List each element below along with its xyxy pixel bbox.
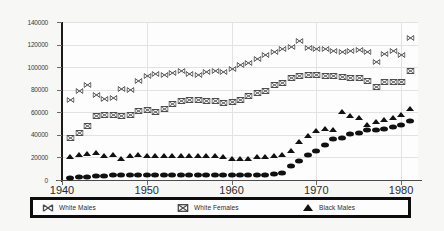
x-axis-tick-label: 1950	[135, 184, 159, 196]
x-axis-tick-label: 1940	[50, 184, 74, 196]
data-point-marker	[389, 115, 397, 120]
x-axis-tick-mark	[147, 181, 148, 185]
data-point-marker	[278, 171, 286, 176]
x-axis-tick-mark	[316, 181, 317, 185]
data-point-marker	[312, 128, 320, 133]
data-point-marker	[203, 69, 210, 75]
data-point-marker	[321, 143, 329, 148]
data-point-marker	[287, 75, 294, 81]
data-point-marker	[329, 137, 337, 142]
data-point-marker	[346, 131, 354, 136]
data-point-marker	[347, 48, 354, 54]
data-point-marker	[203, 98, 210, 104]
data-point-marker	[219, 154, 227, 159]
data-point-marker	[211, 98, 218, 104]
y-axis-tick-label: 20000	[31, 154, 48, 161]
data-point-marker	[135, 108, 142, 114]
y-axis-tick-mark	[57, 45, 62, 46]
data-point-marker	[194, 153, 202, 158]
y-axis-tick-mark	[57, 22, 62, 23]
x-axis-tick-mark	[232, 181, 233, 185]
data-point-marker	[329, 127, 337, 132]
data-point-marker	[296, 73, 303, 79]
data-point-marker	[312, 148, 320, 153]
data-point-marker	[389, 124, 397, 129]
data-point-marker	[84, 123, 91, 129]
data-point-marker	[202, 173, 210, 178]
legend-entry[interactable]: White Males	[41, 200, 96, 215]
data-point-marker	[304, 72, 311, 78]
legend-entry[interactable]: White Females	[176, 200, 239, 215]
data-point-marker	[279, 46, 286, 52]
data-point-marker	[304, 153, 312, 158]
data-point-marker	[397, 122, 405, 127]
data-point-marker	[278, 152, 286, 157]
gridline-horizontal	[62, 45, 418, 46]
gridline-horizontal	[62, 90, 418, 91]
data-point-marker	[287, 164, 295, 169]
data-point-marker	[228, 156, 236, 161]
data-point-marker	[321, 126, 329, 131]
legend-label: Black Males	[319, 204, 355, 211]
data-point-marker	[134, 152, 142, 157]
data-point-marker	[118, 86, 125, 92]
data-point-marker	[245, 60, 252, 66]
data-point-marker	[220, 69, 227, 75]
data-point-marker	[100, 173, 108, 178]
data-point-marker	[211, 68, 218, 74]
data-point-marker	[295, 139, 303, 144]
data-point-marker	[261, 172, 269, 177]
data-point-marker	[101, 112, 108, 118]
gridline-horizontal	[62, 22, 418, 23]
data-point-marker	[100, 153, 108, 158]
legend-label: White Males	[59, 204, 96, 211]
data-point-marker	[355, 75, 362, 81]
x-bowtie-icon	[41, 203, 54, 212]
data-point-marker	[194, 173, 202, 178]
legend-entry[interactable]: Black Males	[301, 200, 355, 215]
data-point-marker	[202, 153, 210, 158]
data-point-marker	[304, 133, 312, 138]
data-point-marker	[117, 156, 125, 161]
data-point-marker	[118, 113, 125, 119]
x-axis-tick-label: 1960	[219, 184, 243, 196]
data-point-marker	[75, 130, 82, 136]
data-point-marker	[236, 156, 244, 161]
data-point-marker	[355, 130, 363, 135]
data-point-marker	[135, 78, 142, 84]
x-axis-tick-mark	[401, 181, 402, 185]
data-point-marker	[92, 113, 99, 119]
data-point-marker	[168, 153, 176, 158]
legend-inner: White MalesWhite FemalesBlack Males	[33, 200, 408, 215]
data-point-marker	[287, 148, 295, 153]
data-point-marker	[66, 154, 74, 159]
data-point-marker	[245, 93, 252, 99]
y-axis-tick-label: 140000	[28, 19, 49, 26]
data-point-marker	[160, 106, 167, 112]
data-point-marker	[92, 92, 99, 98]
data-point-marker	[92, 150, 100, 155]
data-point-marker	[244, 173, 252, 178]
data-point-marker	[279, 80, 286, 86]
data-point-marker	[83, 174, 91, 179]
data-point-marker	[295, 158, 303, 163]
data-point-marker	[92, 174, 100, 179]
data-point-marker	[109, 152, 117, 157]
data-point-marker	[389, 48, 396, 54]
data-point-marker	[338, 74, 345, 80]
data-point-marker	[270, 82, 277, 88]
y-axis-tick-label: 40000	[31, 131, 48, 138]
x-axis-spine	[56, 180, 422, 181]
data-point-marker	[66, 175, 74, 180]
data-point-marker	[253, 56, 260, 62]
data-point-marker	[160, 153, 168, 158]
data-point-marker	[186, 97, 193, 103]
data-point-marker	[270, 49, 277, 55]
data-point-marker	[364, 78, 371, 84]
data-point-marker	[406, 119, 414, 124]
data-point-marker	[262, 52, 269, 58]
data-point-marker	[338, 136, 346, 141]
data-point-marker	[75, 152, 83, 157]
data-point-marker	[211, 173, 219, 178]
data-point-marker	[237, 62, 244, 68]
